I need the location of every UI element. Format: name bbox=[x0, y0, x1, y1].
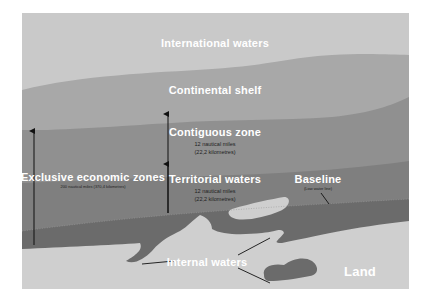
territorial-waters-label: Territorial waters bbox=[169, 173, 261, 185]
eez-distance: 200 nautical miles (370,4 kilometres) bbox=[60, 184, 126, 189]
land-label: Land bbox=[344, 264, 376, 279]
contiguous-zone-distance: 12 nautical miles bbox=[195, 141, 236, 147]
internal-waters-label: Internal waters bbox=[167, 256, 248, 268]
territorial-waters-km: (22,2 kilometres) bbox=[195, 196, 236, 202]
continental-shelf-label: Continental shelf bbox=[169, 84, 262, 96]
international-waters-label: International waters bbox=[161, 37, 269, 49]
baseline-label: Baseline bbox=[295, 173, 342, 185]
maritime-zones-diagram: International waters Continental shelf C… bbox=[22, 13, 409, 289]
contiguous-zone-label: Contiguous zone bbox=[169, 126, 261, 138]
contiguous-zone-km: (22,2 kilometres) bbox=[195, 149, 236, 155]
baseline-sublabel: (Low water line) bbox=[304, 186, 333, 191]
eez-label: Exclusive economic zones bbox=[22, 171, 165, 183]
territorial-waters-distance: 12 nautical miles bbox=[195, 188, 236, 194]
